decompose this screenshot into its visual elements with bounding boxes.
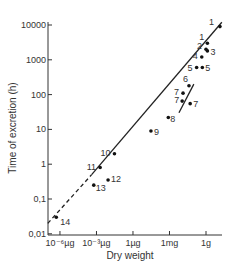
data-point: 14 bbox=[54, 215, 70, 227]
y-tick-label: 10000 bbox=[21, 20, 46, 30]
point-label: 10 bbox=[100, 148, 110, 158]
point-marker bbox=[218, 25, 222, 29]
point-marker bbox=[106, 178, 110, 182]
point-label: 7 bbox=[193, 99, 198, 109]
point-label: 2 bbox=[197, 41, 202, 51]
data-point: 5 bbox=[188, 63, 199, 73]
point-label: 12 bbox=[111, 174, 121, 184]
point-marker bbox=[187, 84, 191, 88]
data-point: 6 bbox=[183, 74, 191, 88]
data-point: 5 bbox=[201, 63, 211, 73]
y-tick-label: 0,01 bbox=[28, 229, 46, 239]
point-marker bbox=[200, 55, 204, 59]
data-point: 8 bbox=[167, 114, 176, 124]
point-label: 4 bbox=[193, 51, 198, 61]
point-marker bbox=[98, 166, 102, 170]
point-marker bbox=[180, 99, 184, 103]
point-marker bbox=[181, 91, 185, 95]
data-point: 7 bbox=[188, 99, 198, 109]
point-label: 13 bbox=[96, 183, 106, 193]
y-tick-label: 10 bbox=[36, 124, 46, 134]
x-tick-label: 10⁻⁶µg bbox=[46, 238, 75, 248]
data-point: 1 bbox=[209, 17, 222, 29]
x-tick-label: 1g bbox=[201, 238, 211, 248]
point-label: 5 bbox=[205, 63, 210, 73]
main-fit-solid-line bbox=[92, 22, 222, 174]
excretion-time-chart: 1000010001001010,10,0110⁻⁶µg10⁻³µg1µg1mg… bbox=[0, 0, 234, 274]
data-point: 11 bbox=[87, 162, 102, 172]
point-marker bbox=[113, 152, 117, 156]
point-label: 14 bbox=[60, 217, 70, 227]
y-tick-label: 1 bbox=[41, 159, 46, 169]
main-fit-dashed-line bbox=[48, 175, 92, 224]
data-points: 11234556777891011121314 bbox=[54, 17, 221, 228]
data-point: 7 bbox=[174, 95, 184, 105]
secondary-fit-line bbox=[179, 84, 194, 113]
point-label: 11 bbox=[87, 162, 96, 172]
x-axis-title: Dry weight bbox=[106, 250, 153, 261]
x-tick-label: 10⁻³µg bbox=[82, 238, 110, 248]
x-tick-label: 1mg bbox=[161, 238, 179, 248]
point-label: 9 bbox=[154, 127, 159, 137]
data-point: 12 bbox=[106, 174, 121, 184]
point-marker bbox=[195, 66, 199, 70]
data-point: 4 bbox=[193, 51, 204, 61]
point-label: 8 bbox=[170, 114, 175, 124]
point-marker bbox=[201, 66, 205, 70]
point-label: 5 bbox=[188, 63, 193, 73]
point-label: 6 bbox=[183, 74, 188, 84]
point-marker bbox=[206, 41, 210, 45]
point-label: 3 bbox=[210, 47, 215, 57]
point-label: 1 bbox=[209, 17, 214, 27]
y-axis-title: Time of excretion (h) bbox=[7, 82, 18, 173]
point-marker bbox=[149, 129, 153, 133]
y-tick-label: 100 bbox=[31, 90, 46, 100]
point-marker bbox=[188, 102, 192, 106]
y-tick-label: 0,1 bbox=[33, 194, 46, 204]
point-marker bbox=[54, 215, 58, 219]
y-tick-label: 1000 bbox=[26, 55, 46, 65]
point-marker bbox=[206, 49, 210, 53]
data-point: 13 bbox=[92, 183, 106, 193]
point-label: 7 bbox=[174, 95, 179, 105]
data-point: 9 bbox=[149, 127, 159, 137]
x-tick-label: 1µg bbox=[125, 238, 140, 248]
